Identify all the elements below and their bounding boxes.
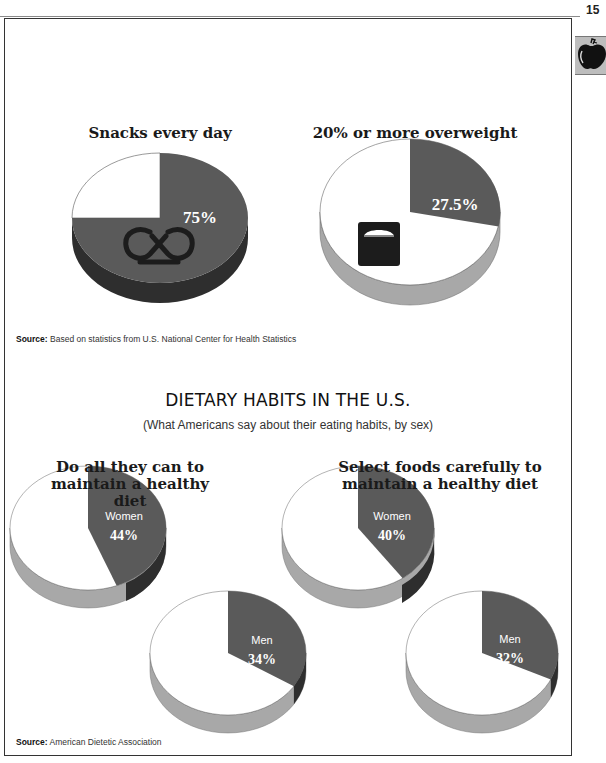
chart-title-select-line2: maintain a healthy diet <box>330 476 550 493</box>
pie-label-do-all-men: 34% <box>248 652 276 667</box>
pie-name-select-women: Women <box>373 510 411 522</box>
pie-select-men: Men 32% <box>406 591 558 733</box>
pie-name-select-men: Men <box>499 633 520 645</box>
section-title: DIETARY HABITS IN THE U.S. <box>0 390 576 410</box>
source-label: Source: <box>16 737 48 747</box>
pie-do-all-men: Men 34% <box>150 591 306 733</box>
pie-snacks: 75% <box>72 153 248 303</box>
pie-label-select-men: 32% <box>496 651 524 666</box>
chart-title-select: Select foods carefully to maintain a hea… <box>330 459 550 493</box>
section-subtitle: (What Americans say about their eating h… <box>0 418 576 432</box>
pie-charts-canvas: 75% 27.5% Women 44% Men 34% <box>0 0 606 763</box>
chart-title-select-line1: Select foods carefully to <box>330 459 550 476</box>
pie-name-do-all-women: Women <box>105 510 143 522</box>
chart-title-do-all: Do all they can to maintain a healthy di… <box>40 459 220 510</box>
chart-title-do-all-line1: Do all they can to <box>40 459 220 476</box>
pie-label-overweight: 27.5% <box>432 195 479 214</box>
bathroom-scale-icon <box>358 222 400 266</box>
pie-overweight: 27.5% <box>320 139 500 305</box>
source-text: Based on statistics from U.S. National C… <box>50 334 296 344</box>
pie-name-do-all-men: Men <box>251 634 272 646</box>
chart-title-do-all-line2: maintain a healthy diet <box>40 476 220 510</box>
pie-label-snacks: 75% <box>183 208 217 227</box>
source-note-top: Source: Based on statistics from U.S. Na… <box>16 334 296 344</box>
source-text: American Dietetic Association <box>50 737 162 747</box>
pie-label-select-women: 40% <box>378 528 406 543</box>
pie-label-do-all-women: 44% <box>110 528 138 543</box>
source-note-bottom: Source: American Dietetic Association <box>16 737 162 747</box>
source-label: Source: <box>16 334 48 344</box>
